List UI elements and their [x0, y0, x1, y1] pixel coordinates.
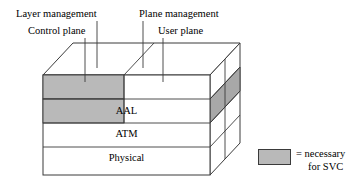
legend: = necessary for SVC — [258, 148, 345, 173]
layer-label-atm: ATM — [43, 128, 210, 139]
legend-line-for-svc: for SVC — [296, 161, 345, 174]
callout-label-plane-management: Plane management — [139, 8, 219, 20]
callout-label-control-plane: Control plane — [28, 25, 85, 37]
callout-label-layer-management: Layer management — [16, 8, 97, 20]
callout-label-user-plane: User plane — [158, 25, 203, 37]
legend-text: = necessary for SVC — [296, 148, 345, 173]
front-cell-top-control-highlight — [43, 75, 124, 99]
cube-top-face — [43, 43, 240, 75]
legend-swatch-necessary-for-svc — [258, 149, 291, 165]
layer-label-aal: AAL — [43, 105, 210, 116]
diagram-page: Layer management Control plane Plane man… — [0, 0, 350, 184]
layer-label-physical: Physical — [43, 152, 210, 163]
legend-line-necessary: = necessary — [296, 148, 345, 161]
